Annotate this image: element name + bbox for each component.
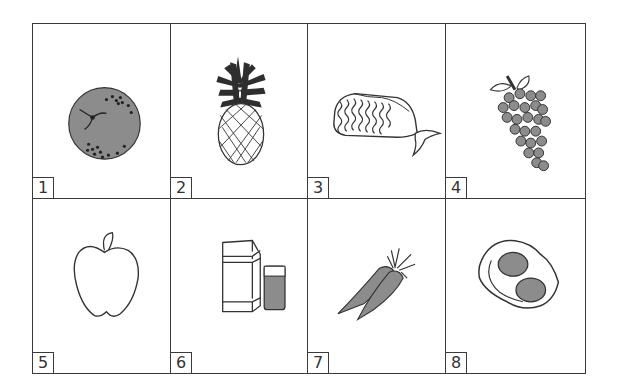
bread-icon: [308, 24, 445, 198]
card-number: 6: [171, 352, 192, 373]
card-4[interactable]: 4: [446, 24, 585, 199]
card-5[interactable]: 5: [33, 199, 171, 373]
card-number: 5: [33, 352, 54, 373]
card-7[interactable]: 7: [308, 199, 446, 373]
card-number: 8: [446, 352, 467, 373]
picture-grid: 1 2: [32, 23, 586, 374]
carrots-icon: [308, 199, 445, 373]
eggs-icon: [446, 199, 585, 373]
card-8[interactable]: 8: [446, 199, 585, 373]
orange-icon: [33, 24, 170, 198]
card-number: 2: [171, 177, 192, 198]
grapes-icon: [446, 24, 585, 198]
card-3[interactable]: 3: [308, 24, 446, 199]
milk-icon: [171, 199, 307, 373]
card-number: 1: [33, 177, 54, 198]
card-6[interactable]: 6: [171, 199, 308, 373]
card-1[interactable]: 1: [33, 24, 171, 199]
card-2[interactable]: 2: [171, 24, 308, 199]
pineapple-icon: [171, 24, 307, 198]
card-number: 3: [308, 177, 329, 198]
card-number: 7: [308, 352, 329, 373]
apple-icon: [33, 199, 170, 373]
card-number: 4: [446, 177, 467, 198]
